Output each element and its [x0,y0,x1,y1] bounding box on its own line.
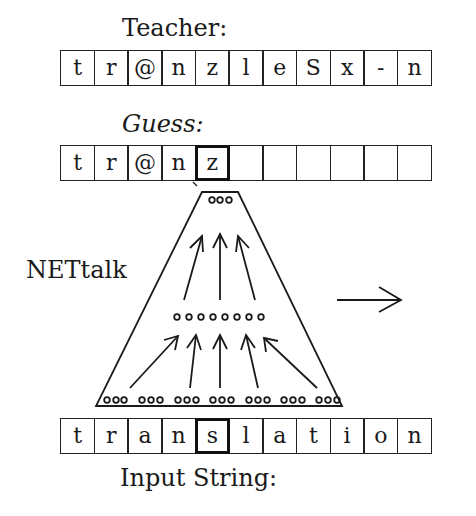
guess-cell-current: z [195,145,230,181]
input-cell: n [397,418,432,454]
input-to-hidden-arrows [130,335,317,388]
network-trapezoid [96,192,342,406]
input-cell: t [296,418,331,454]
input-string-label: Input String: [120,464,277,492]
hidden-to-output-arrows [184,234,255,300]
input-cell: i [330,418,365,454]
output-units [209,197,232,203]
hidden-units [174,314,264,320]
input-cell: t [60,418,95,454]
input-cell-current: s [195,418,230,454]
input-cell: n [161,418,196,454]
input-row: t r a n s l a t i o n [60,418,432,454]
input-cell: o [363,418,398,454]
input-cell: a [262,418,297,454]
input-cell: l [228,418,263,454]
right-arrow-icon [337,287,401,312]
input-cell: a [127,418,162,454]
input-units [104,397,340,403]
input-cell: r [94,418,129,454]
